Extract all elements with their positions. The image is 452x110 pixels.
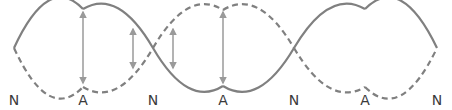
standing-wave-diagram: N A N A N A N bbox=[0, 0, 452, 110]
node-label: N bbox=[143, 92, 163, 108]
antinode-label: A bbox=[355, 92, 375, 108]
antinode-label: A bbox=[73, 92, 93, 108]
antinode-label: A bbox=[213, 92, 233, 108]
wave-dashed-line bbox=[14, 4, 437, 99]
wave-solid-line bbox=[14, 0, 437, 92]
node-label: N bbox=[4, 92, 24, 108]
node-label: N bbox=[284, 92, 304, 108]
node-label: N bbox=[427, 92, 447, 108]
